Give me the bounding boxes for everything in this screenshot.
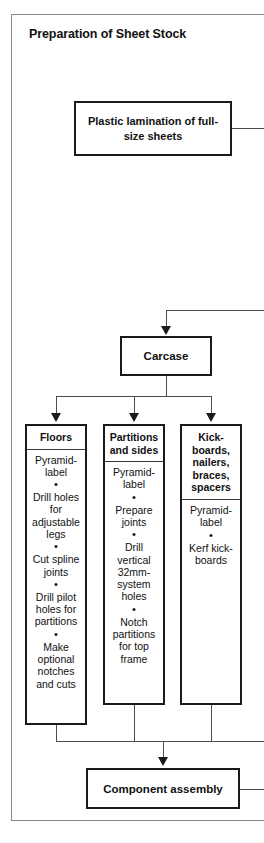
node-kickboards-steps: Pyramid-label • Kerf kick-boards [182, 500, 240, 703]
list-item: Make optional notches and cuts [29, 641, 83, 690]
connector-partitions-to-merge [134, 705, 135, 741]
node-component-assembly[interactable]: Component assembly [86, 768, 240, 809]
bullet-separator-icon: • [29, 579, 83, 590]
list-item: Drill pilot holes for partitions [29, 591, 83, 628]
connector-floors-to-merge [56, 725, 57, 741]
list-item: Notch partitions for top frame [107, 616, 161, 665]
node-component-assembly-label: Component assembly [103, 783, 223, 795]
connector-right-to-carcase-horizontal [166, 310, 264, 311]
node-carcase[interactable]: Carcase [120, 336, 212, 376]
bullet-separator-icon: • [29, 541, 83, 552]
list-item: Prepare joints [107, 504, 161, 529]
arrowhead-into-floors [51, 413, 61, 422]
list-item: Pyramid-label [184, 504, 238, 529]
connector-merge-bar [56, 741, 264, 742]
node-floors-header: Floors [27, 426, 85, 450]
bullet-separator-icon: • [29, 479, 83, 490]
node-partitions-and-sides[interactable]: Partitions and sides Pyramid-label • Pre… [103, 424, 165, 705]
connector-kick-to-merge [211, 705, 212, 741]
node-partitions-and-sides-header: Partitions and sides [105, 426, 163, 462]
bullet-separator-icon: • [29, 629, 83, 640]
list-item: Drill holes for adjustable legs [29, 491, 83, 540]
list-item: Drill vertical 32mm-system holes [107, 541, 161, 602]
node-plastic-lamination[interactable]: Plastic lamination of full-size sheets [74, 101, 232, 156]
node-kickboards-nailers-braces-spacers[interactable]: Kick-boards, nailers, braces, spacers Py… [180, 424, 242, 705]
connector-lamination-to-right [232, 128, 264, 129]
arrowhead-into-kick [206, 413, 216, 422]
bullet-separator-icon: • [107, 492, 161, 503]
node-plastic-lamination-label: Plastic lamination of full-size sheets [84, 114, 222, 142]
node-partitions-and-sides-steps: Pyramid-label • Prepare joints • Drill v… [105, 462, 163, 703]
bullet-separator-icon: • [107, 529, 161, 540]
node-floors-steps: Pyramid-label • Drill holes for adjustab… [27, 450, 85, 723]
flowchart-canvas: Preparation of Sheet Stock Plastic lamin… [0, 0, 264, 843]
list-item: Cut spline joints [29, 553, 83, 578]
list-item: Pyramid-label [107, 466, 161, 491]
connector-component-assembly-to-right [240, 789, 264, 790]
connector-carcase-to-floors [56, 396, 57, 414]
page-title: Preparation of Sheet Stock [29, 27, 186, 41]
node-kickboards-header: Kick-boards, nailers, braces, spacers [182, 426, 240, 500]
connector-merge-to-component-assembly [163, 741, 164, 757]
node-floors[interactable]: Floors Pyramid-label • Drill holes for a… [25, 424, 87, 725]
bullet-separator-icon: • [184, 530, 238, 541]
connector-carcase-to-partitions [134, 396, 135, 414]
connector-carcase-to-kick [211, 396, 212, 414]
arrowhead-into-partitions [129, 413, 139, 422]
list-item: Kerf kick-boards [184, 542, 238, 567]
connector-right-to-carcase-vertical [166, 310, 167, 327]
node-carcase-label: Carcase [144, 350, 189, 362]
connector-carcase-stem [166, 376, 167, 396]
arrowhead-into-component-assembly [158, 757, 168, 766]
list-item: Pyramid-label [29, 454, 83, 479]
bullet-separator-icon: • [107, 604, 161, 615]
arrowhead-into-carcase [161, 326, 171, 335]
